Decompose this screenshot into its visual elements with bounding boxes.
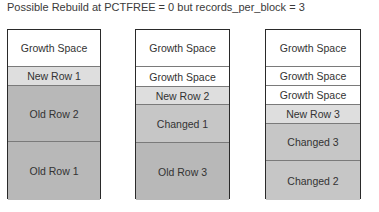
growth-row-cell: Growth Space bbox=[266, 30, 360, 67]
diagram-title: Possible Rebuild at PCTFREE = 0 but reco… bbox=[7, 1, 305, 13]
old-row-cell: Old Row 1 bbox=[8, 142, 100, 200]
new-row-cell: New Row 2 bbox=[136, 87, 229, 105]
growth-row-cell: Growth Space bbox=[266, 86, 360, 105]
growth-row-cell: Growth Space bbox=[136, 67, 229, 87]
growth-row-cell: Growth Space bbox=[136, 30, 229, 67]
changed-row-cell: Changed 1 bbox=[136, 105, 229, 143]
old-row-cell: Old Row 3 bbox=[136, 143, 229, 200]
changed-row-cell: Changed 3 bbox=[266, 124, 360, 161]
data-block-1: Growth SpaceNew Row 1Old Row 2Old Row 1 bbox=[7, 29, 101, 199]
changed-row-cell: Changed 2 bbox=[266, 161, 360, 200]
growth-row-cell: Growth Space bbox=[8, 30, 100, 67]
new-row-cell: New Row 1 bbox=[8, 67, 100, 86]
growth-row-cell: Growth Space bbox=[266, 67, 360, 86]
old-row-cell: Old Row 2 bbox=[8, 86, 100, 142]
data-block-3: Growth SpaceGrowth SpaceGrowth SpaceNew … bbox=[265, 29, 361, 199]
data-block-2: Growth SpaceGrowth SpaceNew Row 2Changed… bbox=[135, 29, 230, 199]
new-row-cell: New Row 3 bbox=[266, 105, 360, 124]
